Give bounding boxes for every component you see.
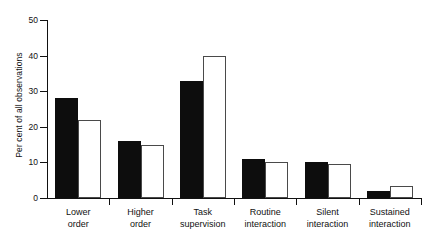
x-category-label-line: Task [172,207,234,219]
bar-filled [305,162,328,198]
bar-open [78,120,101,198]
bar-open [265,162,288,198]
x-tick-mark [421,199,422,205]
x-category-label: Lowerorder [47,207,109,230]
x-category-label-line: Silent [296,207,358,219]
x-category-label: Higherorder [109,207,171,230]
bar-filled [242,159,265,198]
bar-open [141,145,164,198]
x-category-label: Sustainedinteraction [359,207,421,230]
x-category-label-line: interaction [296,219,358,231]
bar-filled [367,191,390,198]
x-category-label-line: Sustained [359,207,421,219]
x-category-label: Routineinteraction [234,207,296,230]
x-category-label: Tasksupervision [172,207,234,230]
bar-filled [55,98,78,198]
bar-filled [180,81,203,198]
x-category-label-line: Routine [234,207,296,219]
x-category-label-line: order [47,219,109,231]
bar-filled [118,141,141,198]
x-category-label-line: interaction [234,219,296,231]
bar-open [390,186,413,198]
x-category-label-line: supervision [172,219,234,231]
x-category-label-line: order [109,219,171,231]
x-tick-mark [234,199,235,205]
x-category-label: Silentinteraction [296,207,358,230]
bar-open [203,56,226,198]
x-tick-mark [296,199,297,205]
bar-chart: Per cent of all observations 01020304050… [0,0,439,246]
x-category-label-line: interaction [359,219,421,231]
x-tick-mark [172,199,173,205]
x-category-label-line: Lower [47,207,109,219]
x-category-label-line: Higher [109,207,171,219]
x-tick-mark [359,199,360,205]
bar-open [328,164,351,198]
x-tick-mark [109,199,110,205]
